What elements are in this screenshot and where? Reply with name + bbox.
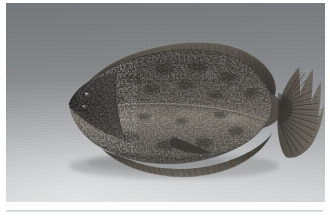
page-root: Photograph of a flatfish (flounder) lyin…	[0, 0, 330, 220]
photo-softening	[6, 3, 325, 202]
bottom-separator-rule	[6, 210, 323, 212]
flatfish-illustration	[6, 3, 325, 202]
caption-whitespace	[6, 204, 323, 209]
flatfish-photograph: Photograph of a flatfish (flounder) lyin…	[6, 3, 325, 202]
